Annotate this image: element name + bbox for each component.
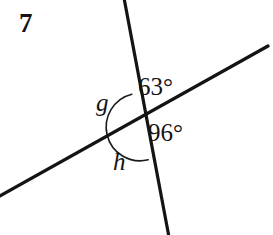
figure-background [0, 0, 273, 235]
problem-number: 7 [19, 10, 33, 37]
angle-label-63-degrees: 63° [138, 74, 173, 99]
angle-variable-label-h: h [113, 149, 126, 174]
angle-label-96-degrees: 96° [148, 120, 183, 145]
angle-variable-label-g: g [96, 90, 109, 115]
geometry-figure: 7 63° 96° g h [0, 0, 273, 235]
figure-canvas [0, 0, 273, 235]
